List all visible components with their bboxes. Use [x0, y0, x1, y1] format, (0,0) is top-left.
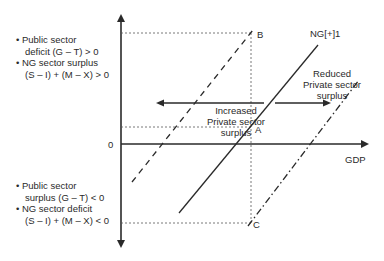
y-axis-arrow-down-icon [117, 240, 125, 248]
line-label-ng: NG[+]1 [310, 28, 340, 39]
annotation-line: (S – I) + (M – X) < 0 [16, 215, 109, 227]
dashdot-line-shifted-right [248, 80, 359, 226]
point-c-label: C [253, 219, 260, 230]
label-line: Private sector [292, 79, 372, 90]
annotation-line: • NG sector surplus [16, 57, 109, 69]
y-axis-zero-label: 0 [108, 139, 113, 150]
annotation-line: • Public sector [16, 180, 109, 192]
label-line: Reduced [292, 68, 372, 79]
increased-surplus-label: Increased Private sector surplus [196, 105, 276, 138]
top-left-annotation: • Public sector deficit (G – T) > 0 • NG… [16, 34, 109, 80]
x-axis-label: GDP [345, 154, 366, 165]
reduced-surplus-label: Reduced Private sector surplus [292, 68, 372, 101]
x-axis-arrow-right-icon [361, 140, 369, 148]
annotation-line: • Public sector [16, 34, 109, 46]
annotation-line: • NG sector deficit [16, 203, 109, 215]
point-b-label: B [257, 29, 263, 40]
y-axis-arrow-up-icon [117, 14, 125, 22]
label-line: surplus [196, 127, 276, 138]
annotation-line: surplus (G – T) < 0 [16, 192, 109, 204]
label-line: Increased [196, 105, 276, 116]
label-line: Private sector [196, 116, 276, 127]
label-line: surplus [292, 90, 372, 101]
arrow-left-icon [156, 100, 164, 107]
bottom-left-annotation: • Public sector surplus (G – T) < 0 • NG… [16, 180, 109, 226]
annotation-line: deficit (G – T) > 0 [16, 46, 109, 58]
annotation-line: (S – I) + (M – X) > 0 [16, 69, 109, 81]
